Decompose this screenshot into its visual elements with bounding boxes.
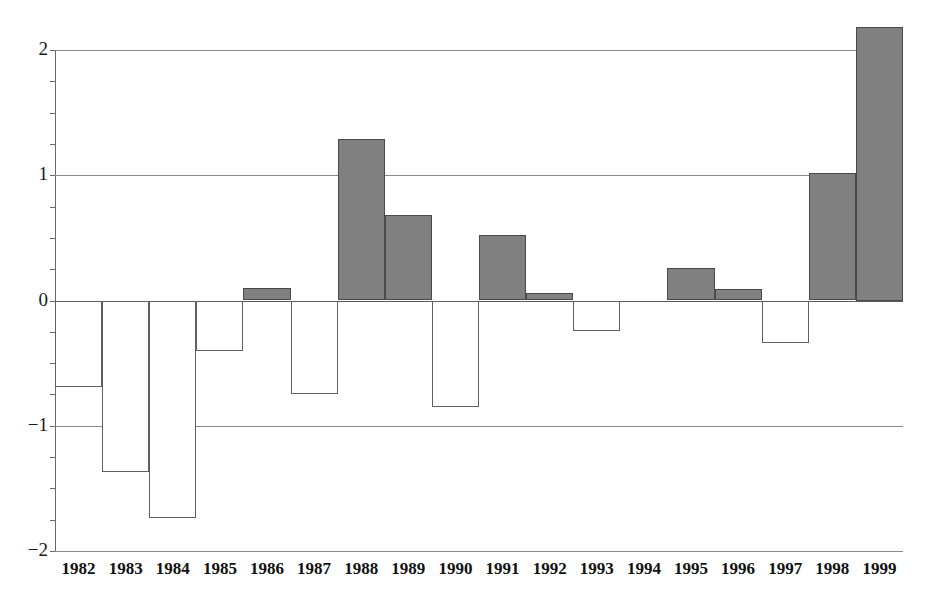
x-axis-tick-label: 1990 xyxy=(432,560,479,579)
x-axis-tick-label: 1986 xyxy=(243,560,290,579)
y-axis-labels: 210−1−2 xyxy=(8,50,48,551)
x-axis-tick-label: 1996 xyxy=(715,560,762,579)
x-axis-tick-label: 1994 xyxy=(620,560,667,579)
x-axis-tick-label: 1982 xyxy=(55,560,102,579)
bar xyxy=(856,27,903,300)
bar xyxy=(149,301,196,519)
bar xyxy=(809,173,856,301)
y-axis-tick-label: −2 xyxy=(8,540,48,559)
bar xyxy=(243,288,290,301)
y-axis-tick-label: 1 xyxy=(8,164,48,183)
bar xyxy=(762,301,809,344)
bar xyxy=(667,268,714,301)
x-axis-tick-label: 1987 xyxy=(291,560,338,579)
bar xyxy=(196,301,243,351)
y-axis-tick-label: 0 xyxy=(8,290,48,309)
bar xyxy=(55,301,102,387)
bar xyxy=(291,301,338,395)
x-axis-tick-label: 1988 xyxy=(338,560,385,579)
bar xyxy=(526,293,573,301)
x-axis-tick-label: 1984 xyxy=(149,560,196,579)
bar xyxy=(338,139,385,301)
y-axis-tick-label: 2 xyxy=(8,39,48,58)
y-axis-tick-label: −1 xyxy=(8,415,48,434)
x-axis-tick-label: 1995 xyxy=(667,560,714,579)
x-axis-tick-label: 1991 xyxy=(479,560,526,579)
x-axis-labels: 1982198319841985198619871988198919901991… xyxy=(55,560,903,592)
bar xyxy=(479,235,526,300)
x-axis-tick-label: 1997 xyxy=(762,560,809,579)
bar xyxy=(385,215,432,300)
bar-chart: 210−1−2 19821983198419851986198719881989… xyxy=(0,0,932,608)
bar xyxy=(102,301,149,473)
x-axis-tick-label: 1999 xyxy=(856,560,903,579)
gridline-2 xyxy=(55,50,903,51)
bar xyxy=(573,301,620,331)
plot-area xyxy=(55,50,903,551)
gridline-1 xyxy=(55,175,903,176)
x-axis-tick-label: 1985 xyxy=(196,560,243,579)
gridline--2 xyxy=(55,551,903,552)
x-axis-tick-label: 1998 xyxy=(809,560,856,579)
x-axis-tick-label: 1989 xyxy=(385,560,432,579)
x-axis-tick-label: 1983 xyxy=(102,560,149,579)
x-axis-tick-label: 1992 xyxy=(526,560,573,579)
bar xyxy=(715,289,762,300)
bar xyxy=(432,301,479,407)
x-axis-tick-label: 1993 xyxy=(573,560,620,579)
